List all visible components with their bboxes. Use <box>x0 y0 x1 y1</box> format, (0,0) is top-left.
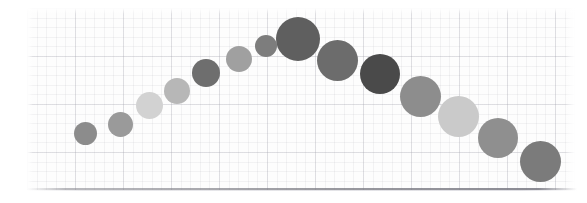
x-axis-line-shadow <box>27 190 577 191</box>
bubble-point <box>520 141 561 182</box>
bubble-point <box>136 92 163 119</box>
paper-edge-left-fade <box>27 8 33 190</box>
bubble-point <box>255 35 277 57</box>
bubble-point <box>360 54 400 94</box>
bubble-point <box>164 78 190 104</box>
bubble-point <box>400 76 441 117</box>
bubble-point <box>438 96 479 137</box>
bubble-chart-figure <box>0 0 587 203</box>
bubble-point <box>74 122 97 145</box>
paper-edge-top-fade <box>27 8 575 14</box>
bubble-point <box>478 118 518 158</box>
bubble-point <box>226 46 252 72</box>
bubble-point <box>317 40 358 81</box>
bubble-point <box>108 112 133 137</box>
paper-edge-right-fade <box>565 8 575 190</box>
bubble-point <box>192 59 220 87</box>
bubble-point <box>276 17 320 61</box>
